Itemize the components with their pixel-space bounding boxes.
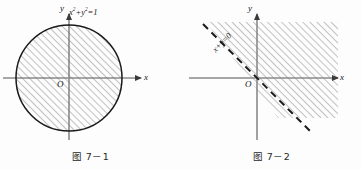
origin-label: O [245, 79, 252, 89]
y-axis-label: y [248, 3, 252, 13]
figure-page: x2+y2=1 y x O 图 7－1 [0, 0, 362, 169]
figure-7-1-graphic [0, 0, 181, 145]
circle-equation-label: x2+y2=1 [69, 7, 98, 17]
figure-7-2-caption: 图 7－2 [181, 149, 362, 163]
x-axis-label: x [340, 72, 344, 82]
origin-label: O [57, 79, 64, 89]
y-axis-label: y [60, 3, 64, 13]
figure-7-2-graphic [181, 0, 362, 145]
figure-7-1-caption: 图 7－1 [0, 149, 181, 163]
figure-7-1-panel: x2+y2=1 y x O 图 7－1 [0, 0, 181, 169]
x-axis-label: x [144, 72, 148, 82]
figure-7-2-panel: x+y=0 y x O 图 7－2 [181, 0, 362, 169]
